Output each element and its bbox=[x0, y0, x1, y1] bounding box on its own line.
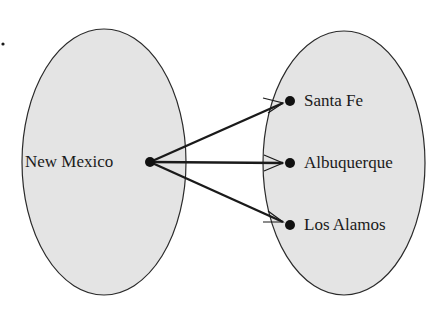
santa-fe-label: Santa Fe bbox=[304, 92, 363, 109]
new-mexico-label: New Mexico bbox=[25, 153, 113, 170]
los-alamos-point bbox=[285, 220, 295, 230]
albuquerque-point bbox=[285, 158, 295, 168]
list-marker-dot bbox=[1, 42, 4, 45]
los-alamos-label: Los Alamos bbox=[304, 216, 386, 233]
santa-fe-point bbox=[285, 96, 295, 106]
albuquerque-label: Albuquerque bbox=[304, 154, 393, 171]
new-mexico-point bbox=[145, 157, 155, 167]
